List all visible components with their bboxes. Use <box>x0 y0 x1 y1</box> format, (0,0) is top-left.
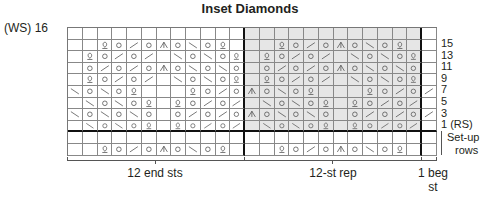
k2tog-icon <box>319 51 334 63</box>
cdd-icon <box>334 63 349 75</box>
ssk-icon <box>83 121 98 133</box>
knit-cell <box>201 132 216 144</box>
k2tog-icon <box>230 121 245 133</box>
twisted-stitch-icon <box>363 86 378 98</box>
knit-cell <box>334 132 349 144</box>
knit-cell <box>289 28 304 40</box>
yarn-over-icon <box>378 86 393 98</box>
knit-cell <box>275 132 290 144</box>
yarn-over-icon <box>304 74 319 86</box>
rep-label: 12-st rep <box>283 166 383 180</box>
chart-row-1 <box>68 121 437 133</box>
ssk-icon <box>378 51 393 63</box>
k2tog-icon <box>127 63 142 75</box>
knit-cell <box>230 40 245 52</box>
k2tog-icon <box>127 144 142 156</box>
knit-cell <box>230 28 245 40</box>
yarn-over-icon <box>407 109 422 121</box>
setup-rows-label: Set-up rows <box>441 131 479 157</box>
yarn-over-icon <box>289 144 304 156</box>
ssk-icon <box>393 63 408 75</box>
ssk-icon <box>201 74 216 86</box>
yarn-over-icon <box>142 63 157 75</box>
knit-cell <box>157 121 172 133</box>
knit-cell <box>245 132 260 144</box>
k2tog-icon <box>407 98 422 110</box>
knit-cell <box>319 86 334 98</box>
knit-cell <box>171 86 186 98</box>
ssk-icon <box>275 86 290 98</box>
twisted-stitch-icon <box>216 144 231 156</box>
k2tog-icon <box>127 40 142 52</box>
ssk-icon <box>275 109 290 121</box>
twisted-stitch-icon <box>230 51 245 63</box>
yarn-over-icon <box>378 63 393 75</box>
cdd-icon <box>334 144 349 156</box>
knit-cell <box>112 132 127 144</box>
knit-cell <box>260 40 275 52</box>
yarn-over-icon <box>112 63 127 75</box>
chart-row-7 <box>68 86 437 98</box>
knit-cell <box>186 132 201 144</box>
k2tog-icon <box>319 74 334 86</box>
yarn-over-icon <box>363 51 378 63</box>
knit-cell <box>319 132 334 144</box>
k2tog-icon <box>289 51 304 63</box>
cdd-icon <box>245 86 260 98</box>
twisted-stitch-icon <box>304 86 319 98</box>
yarn-over-icon <box>275 51 290 63</box>
ssk-icon <box>112 98 127 110</box>
knit-cell <box>348 28 363 40</box>
knit-cell <box>142 132 157 144</box>
twisted-stitch-icon <box>275 40 290 52</box>
knit-cell <box>334 28 349 40</box>
twisted-stitch-icon <box>171 98 186 110</box>
knit-cell <box>157 132 172 144</box>
yarn-over-icon <box>275 121 290 133</box>
k2tog-icon <box>275 63 290 75</box>
twisted-stitch-icon <box>260 51 275 63</box>
yarn-over-icon <box>378 144 393 156</box>
yarn-over-icon <box>230 86 245 98</box>
knit-cell <box>422 40 437 52</box>
yarn-over-icon <box>186 98 201 110</box>
cdd-icon <box>157 40 172 52</box>
knit-cell <box>245 74 260 86</box>
knit-cell <box>422 74 437 86</box>
k2tog-icon <box>304 144 319 156</box>
chart-row-16 <box>68 28 437 40</box>
knit-cell <box>407 144 422 156</box>
yarn-over-icon <box>348 40 363 52</box>
bracket-tick <box>436 157 437 161</box>
yarn-over-icon <box>142 40 157 52</box>
yarn-over-icon <box>319 109 334 121</box>
knit-cell <box>68 40 83 52</box>
cdd-icon <box>334 40 349 52</box>
yarn-over-icon <box>127 51 142 63</box>
knit-cell <box>407 40 422 52</box>
knit-cell <box>289 132 304 144</box>
yarn-over-icon <box>112 40 127 52</box>
knit-cell <box>83 144 98 156</box>
k2tog-icon <box>112 74 127 86</box>
knit-cell <box>83 28 98 40</box>
yarn-over-icon <box>304 98 319 110</box>
k2tog-icon <box>363 109 378 121</box>
knit-cell <box>68 121 83 133</box>
knit-cell <box>171 28 186 40</box>
yarn-over-icon <box>319 144 334 156</box>
ssk-icon <box>68 109 83 121</box>
ssk-icon <box>83 98 98 110</box>
knit-cell <box>393 132 408 144</box>
knit-cell <box>216 28 231 40</box>
yarn-over-icon <box>186 74 201 86</box>
cdd-icon <box>157 63 172 75</box>
k2tog-icon <box>201 98 216 110</box>
knit-cell <box>378 132 393 144</box>
cdd-icon <box>245 109 260 121</box>
ssk-icon <box>363 40 378 52</box>
knit-cell <box>422 121 437 133</box>
k2tog-icon <box>142 74 157 86</box>
ssk-icon <box>171 74 186 86</box>
chart-row-3 <box>68 109 437 121</box>
